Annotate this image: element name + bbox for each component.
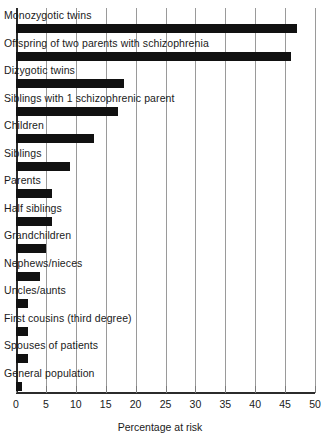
- bar-category-label: Uncles/aunts: [4, 283, 66, 298]
- chart-row: Siblings with 1 schizophrenic parent: [0, 91, 320, 118]
- bar: [16, 107, 118, 116]
- bar: [16, 244, 46, 253]
- bar: [16, 52, 291, 61]
- bar: [16, 24, 297, 33]
- bar: [16, 354, 28, 363]
- bar-category-label: General population: [4, 366, 95, 381]
- x-axis-tick-label: 45: [279, 398, 291, 410]
- bar-category-label: Monozygotic twins: [4, 8, 91, 23]
- x-axis-tick-label: 0: [13, 398, 19, 410]
- bar-category-label: Spouses of patients: [4, 338, 98, 353]
- chart-row: Grandchildren: [0, 228, 320, 255]
- x-axis-tick-label: 30: [190, 398, 202, 410]
- chart-row: First cousins (third degree): [0, 311, 320, 338]
- chart-row: Dizygotic twins: [0, 63, 320, 90]
- bar-category-label: Children: [4, 118, 44, 133]
- x-axis-tick-label: 15: [100, 398, 112, 410]
- bar: [16, 162, 70, 171]
- chart-row: Siblings: [0, 146, 320, 173]
- bar: [16, 217, 52, 226]
- x-axis-title: Percentage at risk: [0, 421, 320, 433]
- x-axis-tick-label: 20: [130, 398, 142, 410]
- x-axis-tick-label: 35: [219, 398, 231, 410]
- chart-row: Uncles/aunts: [0, 283, 320, 310]
- bar: [16, 382, 22, 391]
- bar-category-label: Half siblings: [4, 201, 62, 216]
- chart-row: Spouses of patients: [0, 338, 320, 365]
- x-axis-tick-label: 5: [43, 398, 49, 410]
- chart-row: Parents: [0, 173, 320, 200]
- bar: [16, 299, 28, 308]
- x-axis-tick-label: 25: [160, 398, 172, 410]
- bar-category-label: Grandchildren: [4, 228, 71, 243]
- chart-row: Monozygotic twins: [0, 8, 320, 35]
- bar-category-label: Siblings: [4, 146, 42, 161]
- x-axis-tick-label: 50: [309, 398, 321, 410]
- bar: [16, 272, 40, 281]
- chart-row: Nephews/nieces: [0, 256, 320, 283]
- chart-row: Children: [0, 118, 320, 145]
- bar-category-label: Siblings with 1 schizophrenic parent: [4, 91, 175, 106]
- bar-category-label: Offspring of two parents with schizophre…: [4, 36, 209, 51]
- chart-row: Offspring of two parents with schizophre…: [0, 36, 320, 63]
- bar-category-label: Nephews/nieces: [4, 256, 82, 271]
- x-axis-tick-label: 40: [249, 398, 261, 410]
- bar: [16, 134, 94, 143]
- x-axis-tick-label: 10: [70, 398, 82, 410]
- bar: [16, 189, 52, 198]
- chart-row: General population: [0, 366, 320, 393]
- bar: [16, 79, 124, 88]
- bar-category-label: First cousins (third degree): [4, 311, 132, 326]
- bar-category-label: Parents: [4, 173, 41, 188]
- bar-category-label: Dizygotic twins: [4, 63, 75, 78]
- chart-row: Half siblings: [0, 201, 320, 228]
- bar: [16, 327, 28, 336]
